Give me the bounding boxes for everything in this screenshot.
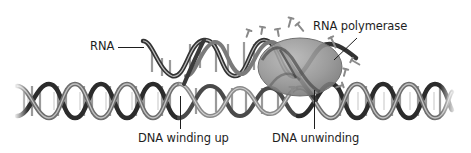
- label-rna-polymerase: RNA polymerase: [313, 21, 407, 33]
- rna-polymerase-enzyme: [258, 38, 342, 96]
- label-dna-unwinding: DNA unwinding: [272, 133, 359, 145]
- label-rna: RNA: [90, 41, 114, 53]
- transcription-diagram: RNA RNA polymerase DNA winding up DNA un…: [0, 0, 471, 153]
- lower-dna-helix: [14, 80, 456, 122]
- label-dna-winding-up: DNA winding up: [138, 133, 229, 145]
